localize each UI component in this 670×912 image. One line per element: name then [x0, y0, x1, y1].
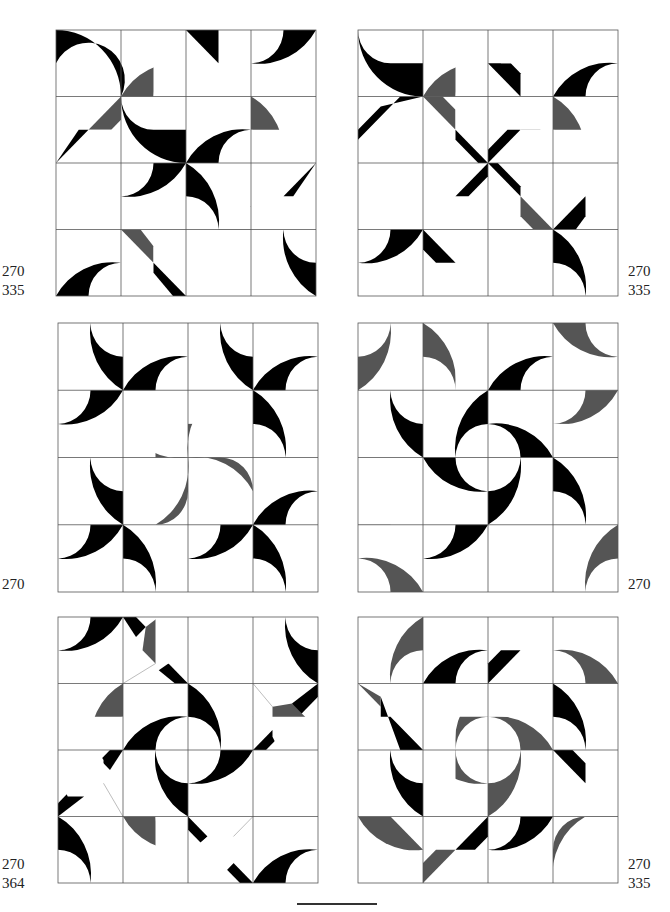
black-arc-shape [488, 423, 553, 457]
hatched-arc-shape [186, 230, 251, 264]
black-arc-shape [188, 750, 253, 784]
black-diagonal-band [456, 163, 489, 196]
black-arc-shape [488, 356, 553, 390]
hatched-arc-shape [90, 684, 123, 751]
black-diagonal-band [381, 697, 423, 750]
black-arc-shape [251, 30, 316, 64]
plate-number: 270 [628, 262, 651, 281]
plate-number: 270 [2, 262, 25, 281]
black-arc-shape [253, 390, 286, 457]
hatched-octagon [273, 703, 319, 750]
black-arc-shape [90, 458, 123, 525]
black-arc-shape [56, 262, 121, 296]
black-diagonal-band [488, 163, 521, 196]
black-diagonal-band [100, 750, 123, 770]
footer-separator-line [297, 903, 377, 905]
black-arc-shape [285, 617, 318, 684]
black-diagonal-band [488, 650, 521, 683]
hatched-diagonal-band [423, 850, 456, 883]
black-diagonal-band [488, 130, 521, 163]
black-arc-shape [253, 849, 318, 883]
hatched-arc-shape [585, 525, 618, 592]
hatched-diagonal-band [358, 684, 381, 707]
hatched-diagonal-band [586, 163, 619, 196]
hatched-arc-shape [390, 617, 423, 684]
black-arc-shape [253, 491, 318, 525]
plate-number-label: 270 335 [2, 262, 25, 300]
plate-number: 335 [628, 281, 651, 300]
plate-number-label: 270 364 [2, 855, 25, 893]
black-diagonal-band [159, 664, 188, 684]
hatched-arc-shape [88, 163, 121, 230]
hatched-arc-shape [553, 323, 618, 357]
black-diagonal-band [553, 750, 586, 783]
hatched-diagonal-band [423, 97, 456, 130]
hatched-arc-shape [423, 750, 488, 784]
black-arc-shape [488, 458, 521, 525]
black-diagonal-band [227, 863, 253, 883]
black-arc-shape [253, 525, 286, 592]
tile-panel-top-left [56, 30, 316, 296]
black-arc-shape [283, 230, 316, 297]
hatched-arc-shape [253, 750, 286, 817]
hatched-arc-shape [358, 323, 391, 390]
black-arc-shape [390, 750, 423, 817]
hatched-arc-shape [390, 163, 423, 230]
black-arc-shape [58, 390, 123, 424]
tile-panel-middle-right [358, 323, 618, 592]
hatched-diagonal-band [521, 196, 554, 229]
hatched-octagon [188, 836, 234, 883]
black-arc-shape [358, 30, 423, 97]
plate-number-label: 270 [2, 575, 25, 594]
plate-number: 270 [628, 855, 651, 874]
black-diagonal-band [186, 30, 219, 63]
hatched-arc-shape [188, 457, 253, 491]
black-arc-shape [186, 163, 219, 230]
black-diagonal-band [423, 230, 456, 263]
black-arc-shape [553, 63, 618, 97]
tile-panel-bottom-right [358, 617, 618, 883]
hatched-diagonal-band [89, 97, 122, 130]
black-arc-shape [155, 750, 188, 817]
black-arc-shape [455, 390, 488, 457]
black-arc-shape [553, 230, 586, 297]
black-arc-shape [553, 458, 586, 525]
black-arc-shape [58, 617, 123, 651]
black-diagonal-band [154, 263, 187, 296]
hatched-arc-shape [553, 390, 618, 424]
hatched-diagonal-band [121, 230, 154, 263]
plate-number: 335 [628, 874, 651, 893]
black-arc-shape [58, 525, 123, 559]
black-arc-shape [123, 525, 156, 592]
hatched-diagonal-band [521, 97, 554, 130]
plate-number-label: 270 335 [628, 855, 651, 893]
hatched-arc-shape [552, 817, 585, 884]
black-arc-shape [121, 163, 186, 197]
black-arc-shape [123, 716, 188, 750]
plate-number: 335 [2, 281, 25, 300]
black-arc-shape [90, 323, 123, 390]
black-diagonal-band [56, 130, 89, 163]
black-arc-shape [253, 356, 318, 390]
hatched-arc-shape [251, 97, 284, 164]
black-diagonal-band [456, 817, 489, 850]
hatched-arc-shape [156, 458, 189, 525]
tile-pattern-drawing [358, 617, 618, 883]
plate-number-label: 270 335 [628, 262, 651, 300]
plate-number: 364 [2, 874, 25, 893]
black-diagonal-band [358, 97, 423, 140]
hatched-octagon [58, 750, 104, 797]
hatched-diagonal-band [358, 140, 381, 163]
grid-lines [358, 323, 618, 592]
hatched-arc-shape [121, 63, 186, 97]
hatched-arc-shape [123, 817, 188, 851]
black-arc-shape [488, 817, 553, 851]
hatched-diagonal-band [586, 783, 619, 816]
hatched-arc-shape [123, 424, 188, 458]
black-arc-shape [188, 684, 221, 751]
hatched-diagonal-band [251, 196, 284, 229]
black-arc-shape [553, 684, 586, 751]
tile-panel-bottom-left [58, 617, 318, 883]
black-diagonal-band [488, 63, 521, 96]
black-arc-shape [186, 129, 251, 163]
